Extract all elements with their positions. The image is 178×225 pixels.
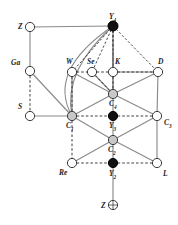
label-sub-C4: 4 (114, 104, 117, 110)
node-S[interactable] (25, 111, 34, 120)
node-Y2[interactable] (108, 158, 117, 167)
node-C3[interactable] (152, 111, 161, 120)
edge-solid-D-C3 (157, 72, 158, 116)
label-sub-Y4: 4 (114, 17, 117, 23)
edge-solid-Ga-C1 (30, 71, 72, 116)
label-Re: Re (59, 169, 67, 177)
label-sub-C3: 3 (169, 123, 172, 129)
label-Y4: Y4 (109, 13, 116, 23)
node-Z_bot[interactable] (108, 200, 117, 209)
edge-solid-D-C4 (113, 72, 158, 94)
label-S: S (18, 103, 22, 111)
edge-solid-C2-L (113, 140, 157, 163)
node-Z_top[interactable] (25, 22, 34, 31)
node-circle-K (108, 67, 117, 76)
label-C3: C3 (164, 119, 172, 129)
node-circle-Re (67, 158, 76, 167)
label-W: W (66, 58, 73, 66)
node-W[interactable] (67, 67, 76, 76)
label-K: K (115, 58, 120, 66)
node-circle-C2 (108, 135, 117, 144)
node-circle-C4 (108, 89, 117, 98)
node-C1[interactable] (67, 111, 76, 120)
graph-canvas (0, 0, 178, 225)
node-circle-Ga (25, 66, 34, 75)
node-circle-Z_top (25, 22, 34, 31)
node-C2[interactable] (108, 135, 117, 144)
node-Se[interactable] (87, 67, 96, 76)
label-Z_top: Z (18, 23, 23, 31)
node-Re[interactable] (67, 158, 76, 167)
label-sub-Y2: 2 (114, 174, 117, 180)
label-C2: C2 (108, 146, 116, 156)
edge-solid-Z_top-Y4 (30, 26, 113, 27)
node-C4[interactable] (108, 89, 117, 98)
graph-figure: ZY4GaWSeKDC4SC1Y3C3C2ReY2LZ (0, 0, 178, 225)
node-circle-Y2 (108, 158, 117, 167)
node-circle-Y3 (108, 111, 117, 120)
label-sub-C1: 1 (71, 126, 74, 132)
node-circle-W (67, 67, 76, 76)
node-circle-C1 (67, 111, 76, 120)
node-circle-L (152, 158, 161, 167)
node-K[interactable] (108, 67, 117, 76)
node-circle-Se (87, 67, 96, 76)
node-circle-S (25, 111, 34, 120)
label-Ga: Ga (11, 59, 20, 67)
label-Z_bot: Z (101, 202, 106, 210)
label-D: D (158, 58, 163, 66)
node-circle-D (153, 67, 162, 76)
label-L: L (163, 170, 168, 178)
edge-solid-C4-C1 (72, 94, 113, 116)
node-D[interactable] (153, 67, 162, 76)
dashed-edge-layer (30, 26, 158, 163)
label-Y2: Y2 (109, 170, 116, 180)
node-Ga[interactable] (25, 66, 34, 75)
label-sub-C2: 2 (113, 150, 116, 156)
label-sub-Y3: 3 (114, 126, 117, 132)
edge-solid-C4-C3 (113, 94, 157, 116)
label-Y3: Y3 (109, 122, 116, 132)
label-C4: C4 (109, 100, 117, 110)
node-circle-C3 (152, 111, 161, 120)
solid-edge-layer (30, 26, 158, 205)
edge-solid-C1-C2 (72, 116, 113, 140)
label-C1: C1 (66, 122, 74, 132)
node-Y3[interactable] (108, 111, 117, 120)
label-Se: Se (87, 58, 95, 66)
edge-solid-C3-C2 (113, 116, 157, 140)
node-L[interactable] (152, 158, 161, 167)
edge-solid-C2-Re (72, 140, 113, 163)
node-layer (25, 21, 162, 210)
